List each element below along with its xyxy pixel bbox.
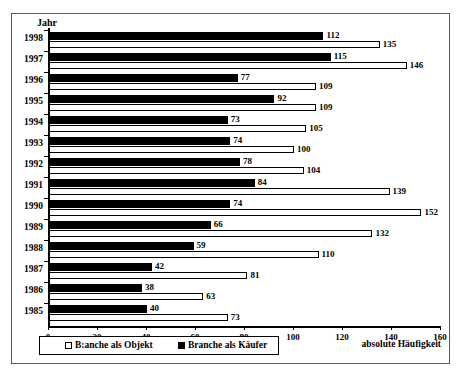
bar-row: 198859110: [48, 240, 440, 261]
legend-item-objekt: B:anche als Objekt: [65, 340, 153, 350]
bar-row: 198966132: [48, 219, 440, 240]
bar-kaeufer: [49, 284, 142, 292]
y-tick-label: 1995: [13, 96, 43, 106]
bar-kaeufer: [49, 95, 274, 103]
bar-row: 1997115146: [48, 51, 440, 72]
y-tick-mark: [44, 198, 48, 199]
legend-label-kaeufer: Branche als Käufer: [188, 340, 267, 350]
y-tick-mark: [44, 51, 48, 52]
bar-row: 199592109: [48, 93, 440, 114]
bar-row: 19863863: [48, 282, 440, 303]
bar-objekt: [49, 146, 294, 153]
y-axis-title: Jahr: [37, 17, 57, 28]
bar-row: 199374100: [48, 135, 440, 156]
y-tick-label: 1997: [13, 54, 43, 64]
x-tick-mark: [195, 326, 196, 330]
legend-swatch-open-icon: [65, 342, 72, 349]
y-tick-mark: [44, 156, 48, 157]
bar-value-kaeufer: 73: [231, 115, 240, 124]
bar-kaeufer: [49, 200, 230, 208]
y-tick-label: 1988: [13, 243, 43, 253]
y-tick-mark: [44, 177, 48, 178]
x-tick-mark: [97, 326, 98, 330]
y-tick-label: 1991: [13, 180, 43, 190]
bar-value-objekt: 109: [319, 82, 333, 91]
bar-kaeufer: [49, 179, 255, 187]
plot-area: 1998112135199711514619967710919959210919…: [48, 30, 440, 326]
x-tick-mark: [391, 326, 392, 330]
y-tick-label: 1992: [13, 159, 43, 169]
bar-value-objekt: 109: [319, 103, 333, 112]
bar-objekt: [49, 314, 228, 321]
bar-value-objekt: 139: [393, 187, 407, 196]
x-tick-mark: [342, 326, 343, 330]
y-tick-label: 1998: [13, 33, 43, 43]
bar-objekt: [49, 62, 407, 69]
bar-kaeufer: [49, 305, 147, 313]
x-tick-mark: [48, 326, 49, 330]
bar-value-kaeufer: 92: [277, 94, 286, 103]
y-tick-mark: [44, 30, 48, 31]
bar-value-objekt: 105: [309, 124, 323, 133]
y-tick-mark: [44, 282, 48, 283]
bar-value-objekt: 110: [322, 250, 335, 259]
bar-value-kaeufer: 78: [243, 157, 252, 166]
bar-value-objekt: 132: [375, 229, 389, 238]
y-tick-label: 1994: [13, 117, 43, 127]
bar-value-objekt: 73: [231, 313, 240, 322]
bar-objekt: [49, 293, 203, 300]
bar-value-kaeufer: 74: [233, 136, 242, 145]
y-tick-label: 1996: [13, 75, 43, 85]
y-tick-mark: [44, 240, 48, 241]
bar-value-kaeufer: 84: [258, 178, 267, 187]
bar-objekt: [49, 230, 372, 237]
bar-row: 199278104: [48, 156, 440, 177]
y-tick-label: 1993: [13, 138, 43, 148]
x-tick-label: 100: [286, 332, 300, 342]
bar-value-objekt: 81: [250, 271, 259, 280]
bar-kaeufer: [49, 116, 228, 124]
bar-value-kaeufer: 74: [233, 199, 242, 208]
bar-row: 19854073: [48, 303, 440, 324]
bar-value-kaeufer: 59: [197, 241, 206, 250]
bar-kaeufer: [49, 158, 240, 166]
y-tick-label: 1989: [13, 222, 43, 232]
bar-value-objekt: 135: [383, 40, 397, 49]
legend-swatch-filled-icon: [178, 342, 185, 349]
bar-kaeufer: [49, 53, 331, 61]
x-axis-title: absolute Häufigkeit: [362, 339, 441, 349]
bar-value-objekt: 104: [307, 166, 321, 175]
y-tick-mark: [44, 135, 48, 136]
bar-value-kaeufer: 77: [241, 73, 250, 82]
x-tick-mark: [244, 326, 245, 330]
bar-objekt: [49, 251, 319, 258]
x-tick-mark: [293, 326, 294, 330]
y-tick-label: 1985: [13, 306, 43, 316]
y-tick-label: 1990: [13, 201, 43, 211]
bar-row: 199074152: [48, 198, 440, 219]
bar-row: 199184139: [48, 177, 440, 198]
bar-objekt: [49, 41, 380, 48]
bar-objekt: [49, 209, 421, 216]
legend-label-objekt: B:anche als Objekt: [75, 340, 153, 350]
bar-value-kaeufer: 38: [145, 283, 154, 292]
bar-row: 199473105: [48, 114, 440, 135]
legend-item-kaeufer: Branche als Käufer: [178, 340, 267, 350]
bar-value-objekt: 152: [424, 208, 438, 217]
bar-kaeufer: [49, 221, 211, 229]
bar-objekt: [49, 188, 390, 195]
bar-kaeufer: [49, 74, 238, 82]
bar-value-objekt: 146: [410, 61, 424, 70]
x-tick-mark: [440, 326, 441, 330]
chart-figure: Jahr 19981121351997115146199677109199592…: [11, 13, 450, 364]
y-tick-mark: [44, 303, 48, 304]
bar-row: 19874281: [48, 261, 440, 282]
x-tick-label: 120: [335, 332, 349, 342]
bar-objekt: [49, 125, 306, 132]
y-tick-label: 1987: [13, 264, 43, 274]
bar-value-kaeufer: 112: [326, 31, 339, 40]
bar-value-kaeufer: 40: [150, 304, 159, 313]
bar-value-kaeufer: 66: [214, 220, 223, 229]
bar-row: 199677109: [48, 72, 440, 93]
y-tick-label: 1986: [13, 285, 43, 295]
